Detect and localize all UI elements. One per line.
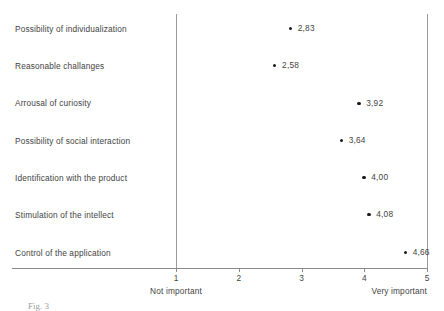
scale-anchor-very-important: Very important bbox=[371, 286, 427, 296]
x-tick-mark-3 bbox=[302, 268, 303, 272]
category-label-identification-with-the-product: Identification with the product bbox=[15, 173, 127, 183]
scale-anchor-not-important: Not important bbox=[150, 286, 202, 296]
figure-caption: Fig. 3 bbox=[28, 301, 428, 311]
data-marker bbox=[357, 102, 360, 105]
x-tick-mark-1 bbox=[176, 268, 177, 272]
x-tick-label-4: 4 bbox=[362, 273, 367, 283]
right-border-line bbox=[427, 14, 428, 268]
data-marker bbox=[367, 213, 370, 216]
dot-plot-figure: Possibility of individualization Reasona… bbox=[0, 0, 444, 311]
data-marker bbox=[289, 27, 292, 30]
data-marker bbox=[362, 176, 365, 179]
category-label-arrousal-of-curiosity: Arrousal of curiosity bbox=[15, 98, 91, 108]
data-value-label: 4,00 bbox=[371, 172, 388, 182]
y-axis-line bbox=[176, 14, 177, 268]
data-value-label: 4,08 bbox=[376, 209, 393, 219]
data-value-label: 4,66 bbox=[413, 247, 430, 257]
x-tick-mark-2 bbox=[239, 268, 240, 272]
data-marker bbox=[404, 251, 407, 254]
category-label-possibility-of-individualization: Possibility of individualization bbox=[15, 24, 127, 34]
x-tick-label-2: 2 bbox=[236, 273, 241, 283]
x-tick-label-3: 3 bbox=[299, 273, 304, 283]
data-value-label: 2,83 bbox=[298, 23, 315, 33]
data-value-label: 3,64 bbox=[349, 135, 366, 145]
x-tick-mark-5 bbox=[427, 268, 428, 272]
x-tick-mark-4 bbox=[364, 268, 365, 272]
category-label-possibility-of-social-interaction: Possibility of social interaction bbox=[15, 136, 130, 146]
data-value-label: 2,58 bbox=[282, 60, 299, 70]
category-label-control-of-the-application: Control of the application bbox=[15, 248, 111, 258]
category-label-reasonable-challanges: Reasonable challanges bbox=[15, 61, 104, 71]
x-tick-label-1: 1 bbox=[174, 273, 179, 283]
data-marker bbox=[340, 139, 343, 142]
data-marker bbox=[273, 64, 276, 67]
category-label-stimulation-of-the-intellect: Stimulation of the intellect bbox=[15, 210, 114, 220]
data-value-label: 3,92 bbox=[366, 98, 383, 108]
x-tick-label-5: 5 bbox=[425, 273, 430, 283]
